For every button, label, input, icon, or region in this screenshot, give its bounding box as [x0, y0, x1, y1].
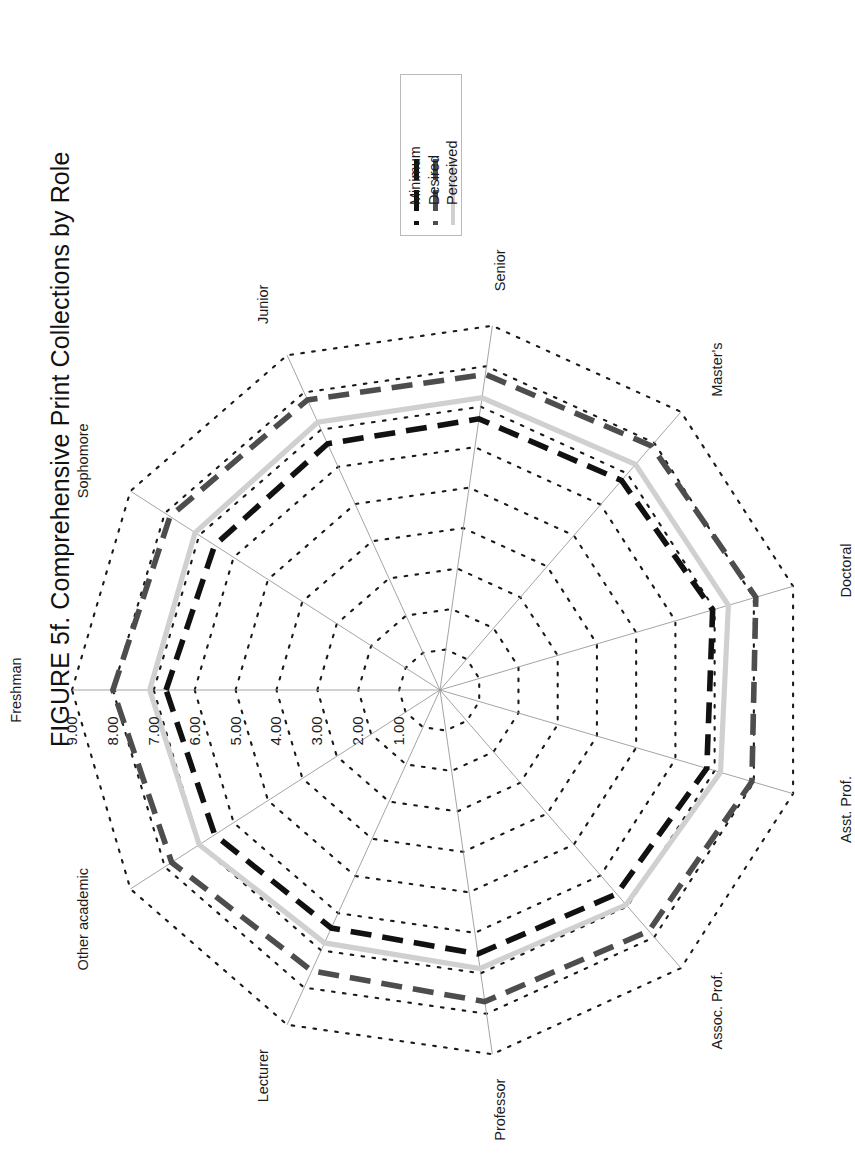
radial-tick-3-00: 3.00: [308, 703, 326, 759]
axis-label-assocprof: Assoc. Prof.: [709, 935, 726, 1085]
axis-label-lecturer: Lecturer: [255, 1001, 272, 1151]
axis-spoke: [440, 326, 492, 690]
axis-label-junior: Junior: [255, 229, 272, 379]
radial-tick-1-00: 1.00: [390, 703, 408, 759]
legend-label-perceived: Perceived: [443, 95, 461, 205]
series-perceived: [150, 398, 729, 969]
radial-tick-6-00: 6.00: [186, 703, 204, 759]
axis-label-senior: Senior: [492, 195, 509, 345]
axis-spoke: [440, 690, 681, 968]
legend-item-minimum: Minimum: [407, 81, 427, 231]
axis-label-professor: Professor: [492, 1035, 509, 1161]
radial-tick-4-00: 4.00: [267, 703, 285, 759]
axis-label-sophomore: Sophomore: [75, 386, 92, 536]
series-minimum: [166, 419, 713, 954]
radial-tick-2-00: 2.00: [349, 703, 367, 759]
radial-tick-8-00: 8.00: [104, 703, 122, 759]
radar-series: [113, 374, 756, 1001]
axis-label-doctoral: Doctoral: [838, 496, 855, 646]
series-desired: [113, 374, 756, 1001]
legend-label-minimum: Minimum: [406, 95, 424, 205]
legend-label-desired: Desired: [425, 95, 443, 205]
axis-label-asstprof: Asst. Prof.: [838, 735, 855, 885]
axis-label-masters: Master's: [709, 295, 726, 445]
axis-label-freshman: Freshman: [8, 615, 25, 765]
radial-tick-9-00: 9.00: [63, 703, 81, 759]
axis-label-otheracademic: Other academic: [75, 844, 92, 994]
radial-tick-7-00: 7.00: [145, 703, 163, 759]
legend-item-perceived: Perceived: [444, 81, 464, 231]
chart-legend: Minimum Desired Perceived: [400, 74, 462, 236]
radial-tick-5-00: 5.00: [227, 703, 245, 759]
